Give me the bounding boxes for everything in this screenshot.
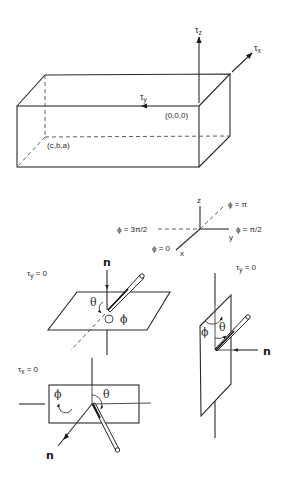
horizontal-plane-figure: τy = 0 n θ ϕ [27,256,170,355]
x-axis [176,229,200,250]
tau-z-label: τz [195,25,202,36]
origin-label: (0,0,0) [165,111,188,120]
x-axis-label: x [180,249,184,258]
phi-reference-axes: z ϕ = π y ϕ = π/2 ϕ = 3π/2 x ϕ = 0 [117,196,262,258]
normal-n-label-front: n [46,449,54,462]
phi-3pi-2-label: ϕ = 3π/2 [117,225,148,234]
theta-label-front: θ [103,388,110,401]
tau-x-arrow [232,53,252,72]
pencil-indenter-front [92,403,120,452]
theta-arc-right [215,336,226,339]
box-right-face [199,74,230,167]
phi-arc-front [59,404,72,413]
vertical-plane [200,295,231,416]
tau-y-arrow [141,104,147,109]
normal-n-label: n [103,256,111,269]
tau-x-zero-condition: τx = 0 [18,365,39,375]
theta-label: θ [90,296,97,309]
tau-y-zero-condition-right: τy = 0 [236,263,257,274]
phi-pi-2-label: ϕ = π/2 [236,225,262,234]
y-axis-label: y [229,233,233,242]
projection-line [71,314,105,350]
phi-0-label: ϕ = 0 [152,244,171,253]
phi-label-front: ϕ [54,388,62,401]
box-top-face [17,74,230,106]
tau-y-zero-condition: τy = 0 [27,269,48,280]
crystal-orientation-diagram: τz τx τy (0,0,0) (c,b,a) z ϕ = π y ϕ = π… [0,0,290,478]
phi-pi-axis [200,205,225,229]
z-axis-label: z [197,196,201,205]
phi-pi-label: ϕ = π [228,200,248,209]
normal-n-label-right: n [263,345,271,358]
hidden-edge-depth [17,137,45,167]
far-corner-label: (c,b,a) [47,141,70,150]
normal-line-front [58,404,92,446]
theta-label-right: θ [219,321,226,334]
horizontal-axis-right [92,403,151,404]
phi-rotation-circle [105,315,113,323]
box-figure: τz τx τy (0,0,0) (c,b,a) [17,25,262,167]
phi-label: ϕ [120,313,128,326]
vertical-plane-figure: τy = 0 n ϕ θ [200,263,271,438]
hidden-edge-bottom [45,136,230,137]
theta-arc [99,302,103,313]
phi-label-right: ϕ [201,326,209,339]
pencil-indenter [108,274,144,312]
tau-y-label: τy [140,92,148,104]
tau-x-label: τx [254,43,262,54]
front-plane-figure: τx = 0 n θ ϕ [18,358,151,462]
